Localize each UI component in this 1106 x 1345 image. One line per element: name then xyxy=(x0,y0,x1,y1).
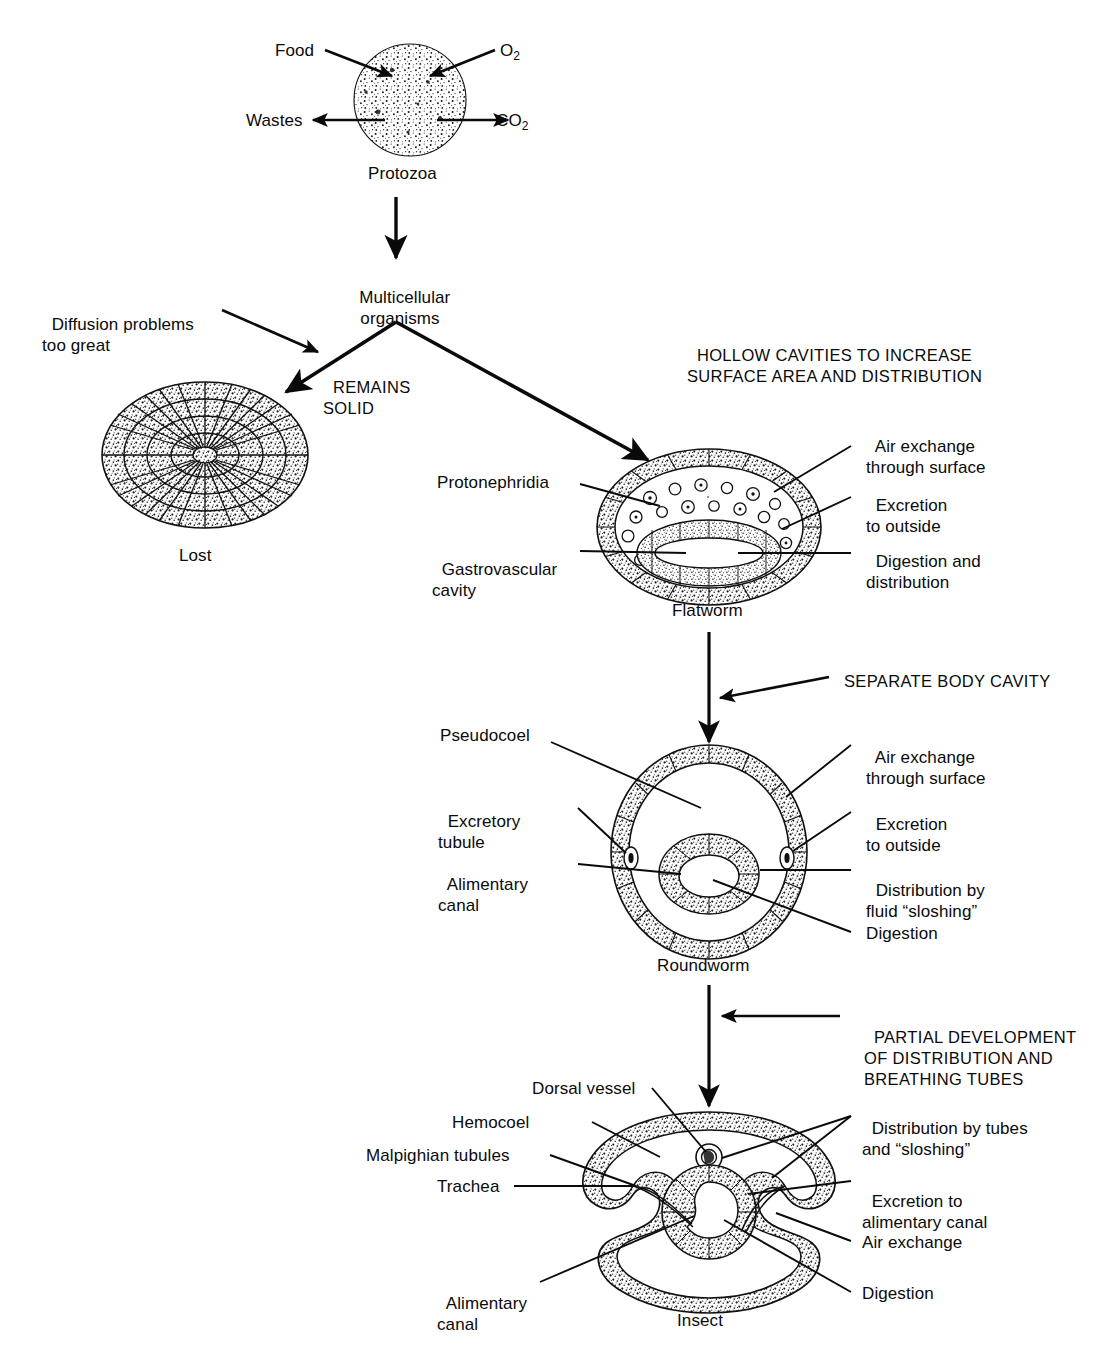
label-hollow-cavities-transition: HOLLOW CAVITIES TO INCREASESURFACE AREA … xyxy=(687,324,982,387)
diagram-canvas: Food O2 Wastes CO2 Protozoa Multicellula… xyxy=(0,0,1106,1345)
label-hemocoel: Hemocoel xyxy=(452,1112,529,1133)
label-insect-excretion: Excretion toalimentary canal xyxy=(862,1170,987,1233)
label-insect: Insect xyxy=(677,1310,723,1331)
label-multicellular-organisms: Multicellularorganisms xyxy=(330,266,470,329)
label-oxygen: O2 xyxy=(500,40,520,63)
label-flatworm: Flatworm xyxy=(672,600,743,621)
label-roundworm-alimentary-canal: Alimentarycanal xyxy=(438,853,528,916)
label-food: Food xyxy=(275,40,314,61)
label-roundworm-air-exchange: Air exchangethrough surface xyxy=(866,726,986,789)
label-gastrovascular-cavity: Gastrovascularcavity xyxy=(432,538,557,601)
label-roundworm-excretion: Excretionto outside xyxy=(866,793,947,856)
label-flatworm-excretion: Excretionto outside xyxy=(866,474,947,537)
label-insect-alimentary-canal: Alimentarycanal xyxy=(437,1272,527,1335)
label-dorsal-vessel: Dorsal vessel xyxy=(532,1078,635,1099)
label-roundworm: Roundworm xyxy=(657,955,750,976)
label-separate-body-cavity-transition: SEPARATE BODY CAVITY xyxy=(844,671,1051,692)
label-insect-distribution: Distribution by tubesand “sloshing” xyxy=(862,1097,1028,1160)
label-trachea: Trachea xyxy=(437,1176,499,1197)
alimentary-canal-lumen xyxy=(679,855,739,897)
label-malpighian-tubules: Malpighian tubules xyxy=(366,1145,510,1166)
label-remains-solid: REMAINSSOLID xyxy=(323,356,411,419)
protozoa-cell xyxy=(354,44,466,156)
roundworm-cross-section xyxy=(611,745,807,959)
label-insect-air-exchange: Air exchange xyxy=(862,1232,962,1253)
label-protonephridia: Protonephridia xyxy=(437,472,549,493)
label-roundworm-distribution: Distribution byfluid “sloshing” xyxy=(866,859,985,922)
arrow-diffusion-problems xyxy=(222,310,318,352)
solid-organism xyxy=(102,382,308,528)
label-excretory-tubule: Excretorytubule xyxy=(438,790,520,853)
arrow-separate-body-cavity xyxy=(720,677,829,698)
label-carbon-dioxide: CO2 xyxy=(496,110,528,133)
label-wastes: Wastes xyxy=(246,110,303,131)
label-partial-development-transition: PARTIAL DEVELOPMENTOF DISTRIBUTION ANDBR… xyxy=(864,1006,1076,1090)
label-protozoa: Protozoa xyxy=(368,163,437,184)
label-diffusion-problems: Diffusion problemstoo great xyxy=(42,293,194,356)
label-flatworm-digestion: Digestion anddistribution xyxy=(866,530,981,593)
label-roundworm-digestion: Digestion xyxy=(866,923,938,944)
label-lost: Lost xyxy=(179,545,212,566)
insect-cross-section xyxy=(583,1112,835,1313)
label-pseudocoel: Pseudocoel xyxy=(440,725,530,746)
label-insect-digestion: Digestion xyxy=(862,1283,934,1304)
label-flatworm-air-exchange: Air exchangethrough surface xyxy=(866,415,986,478)
